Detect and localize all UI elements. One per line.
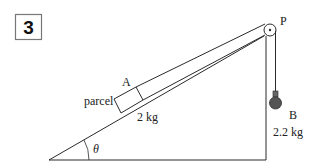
rope-upper xyxy=(136,24,265,87)
parcel-label: parcel xyxy=(84,94,114,108)
incline-surface xyxy=(49,36,264,160)
problem-number: 3 xyxy=(23,17,34,38)
weight-hook xyxy=(273,91,278,97)
mass-a-label: 2 kg xyxy=(137,110,158,124)
angle-label: θ xyxy=(93,142,99,156)
rope-lower xyxy=(143,35,265,100)
block-a-label: A xyxy=(122,75,131,89)
incline-pulley-diagram: 3 parcel A 2 kg P B 2.2 kg θ xyxy=(0,0,313,165)
pulley-axle xyxy=(269,29,271,31)
weight-b xyxy=(270,97,282,109)
pulley-label: P xyxy=(280,14,287,28)
mass-b-label: 2.2 kg xyxy=(273,125,303,139)
weight-b-label: B xyxy=(289,108,297,122)
angle-arc xyxy=(84,140,89,160)
